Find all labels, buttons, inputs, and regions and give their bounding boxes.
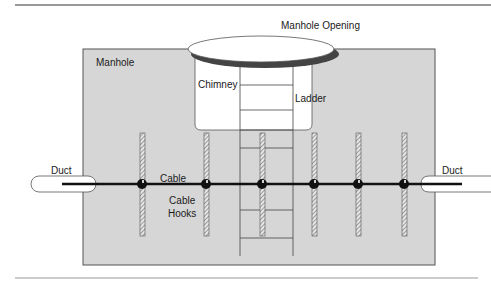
cable-hooks-label: Cable Hooks xyxy=(168,194,196,220)
duct-right-label: Duct xyxy=(442,166,463,176)
manhole-opening xyxy=(188,36,334,62)
duct-left-label: Duct xyxy=(51,166,72,176)
manhole-label: Manhole xyxy=(96,58,134,68)
cable-hooks-label-line1: Cable xyxy=(168,194,196,207)
chimney-label: Chimney xyxy=(198,80,237,90)
cable-label: Cable xyxy=(160,174,186,184)
manhole-opening-label: Manhole Opening xyxy=(281,21,360,31)
cable-hooks-label-line2: Hooks xyxy=(168,207,196,220)
ladder-label: Ladder xyxy=(295,94,326,104)
manhole-diagram xyxy=(0,0,491,285)
